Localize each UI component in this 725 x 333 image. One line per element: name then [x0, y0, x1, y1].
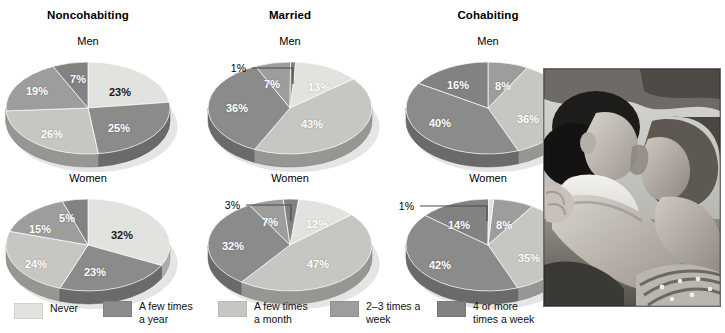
- column-header-cohabiting: Cohabiting: [388, 9, 588, 21]
- legend-label-never: Never: [50, 302, 78, 315]
- legend-swatch-few-times-month: [218, 301, 247, 317]
- pie-svg: [0, 52, 188, 170]
- pie-slice-label: 47%: [307, 258, 329, 270]
- legend-swatch-4-or-more-week: [437, 301, 466, 317]
- legend-label-4-or-more-week: 4 or more times a week: [473, 300, 534, 325]
- pie-slice-label: 26%: [41, 128, 63, 140]
- legend-label-2-3-times-week: 2–3 times a week: [366, 300, 420, 325]
- couple-photo: [543, 68, 721, 307]
- legend-item-few-times-month: A few times a month: [218, 300, 308, 325]
- figure-root: Noncohabiting Married Cohabiting Men Men…: [0, 0, 725, 333]
- pie-svg: [190, 189, 390, 307]
- pie-callout-label: 3%: [225, 199, 240, 211]
- pie-slice-label: 5%: [59, 212, 75, 224]
- pie-svg: [0, 189, 188, 307]
- legend-item-2-3-times-week: 2–3 times a week: [330, 300, 420, 325]
- pie-slice-label: 24%: [25, 258, 47, 270]
- pie-slice-label: 13%: [308, 81, 330, 93]
- pie-slice: [88, 62, 169, 108]
- legend-label-few-times-month: A few times a month: [254, 300, 308, 325]
- pie-slice-label: 25%: [108, 122, 130, 134]
- pie-chart-married-men: 13%43%36%7%1%: [190, 52, 390, 170]
- pie-slice-label: 7%: [262, 216, 278, 228]
- pie-callout-label: 1%: [231, 62, 246, 74]
- column-header-noncohabiting: Noncohabiting: [0, 9, 188, 21]
- pie-slice-label: 7%: [70, 73, 86, 85]
- pie-chart-noncohabiting-women: 32%23%24%15%5%: [0, 189, 188, 307]
- legend-item-never: Never: [14, 302, 78, 319]
- couple-photo-image: [544, 69, 720, 306]
- pie-slice-label: 7%: [264, 78, 280, 90]
- row-label-women-noncohabiting: Women: [0, 172, 188, 184]
- pie-slice-label: 19%: [26, 85, 48, 97]
- pie-slice-label: 43%: [301, 118, 323, 130]
- pie-svg: [190, 52, 390, 170]
- pie-slice-label: 36%: [226, 102, 248, 114]
- pie-slice-label: 15%: [29, 223, 51, 235]
- legend-swatch-never: [14, 303, 43, 319]
- pie-slice-label: 32%: [111, 229, 133, 241]
- pie-slice-label: 14%: [448, 219, 470, 231]
- legend-item-4-or-more-week: 4 or more times a week: [437, 300, 534, 325]
- pie-slice-label: 12%: [306, 218, 328, 230]
- row-label-men-noncohabiting: Men: [0, 35, 188, 47]
- row-label-men-married: Men: [190, 35, 390, 47]
- pie-slice-label: 42%: [429, 259, 451, 271]
- legend: Never A few times a year A few times a m…: [0, 296, 545, 333]
- pie-chart-married-women: 12%47%32%7%3%: [190, 189, 390, 307]
- pie-slice-label: 23%: [109, 86, 131, 98]
- row-label-men-cohabiting: Men: [388, 35, 588, 47]
- legend-item-few-times-year: A few times a year: [103, 300, 193, 325]
- pie-slice-label: 8%: [496, 219, 512, 231]
- column-header-married: Married: [190, 9, 390, 21]
- pie-chart-noncohabiting-men: 23%25%26%19%7%: [0, 52, 188, 170]
- legend-label-few-times-year: A few times a year: [139, 300, 193, 325]
- row-label-women-married: Women: [190, 172, 390, 184]
- pie-slice-label: 32%: [222, 240, 244, 252]
- legend-swatch-2-3-times-week: [330, 301, 359, 317]
- pie-slice-label: 16%: [447, 79, 469, 91]
- pie-slice-label: 23%: [84, 266, 106, 278]
- pie-slice-label: 8%: [495, 80, 511, 92]
- legend-swatch-few-times-year: [103, 301, 132, 317]
- pie-callout-label: 1%: [399, 200, 414, 212]
- pie-slice-label: 40%: [429, 117, 451, 129]
- pie-slice-label: 36%: [517, 113, 539, 125]
- pie-slice-label: 35%: [518, 252, 540, 264]
